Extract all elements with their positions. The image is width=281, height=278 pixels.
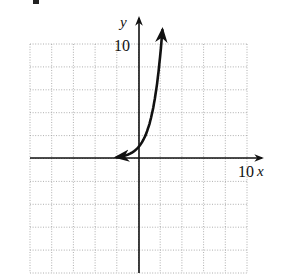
x-axis-label: x [256, 163, 264, 179]
x-tick-label-10: 10 [238, 163, 254, 180]
y-tick-label-10: 10 [114, 37, 130, 54]
cropped-text-fragment [33, 0, 39, 4]
exponential-graph: y 10 10 x [0, 0, 281, 278]
y-axis-label: y [118, 14, 127, 30]
